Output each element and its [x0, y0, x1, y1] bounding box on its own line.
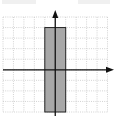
- cropped-text-left: [2, 0, 36, 4]
- cropped-text-right: [78, 0, 110, 4]
- coordinate-plane-diagram: [0, 0, 114, 116]
- x-axis-arrow-icon: [106, 67, 114, 73]
- graph-canvas: [0, 0, 114, 116]
- y-axis-arrow-icon: [52, 10, 58, 18]
